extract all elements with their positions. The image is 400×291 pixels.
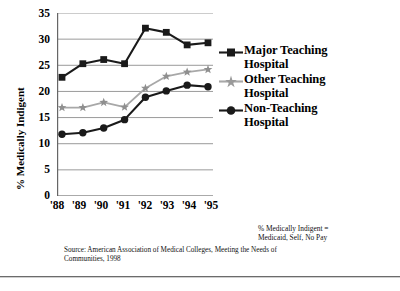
- y-tick-15: 15: [20, 112, 50, 124]
- legend-label-line2: Hospital: [244, 86, 288, 100]
- y-tick-25: 25: [20, 60, 50, 72]
- x-tick-95: '95: [198, 200, 224, 212]
- definition-note-line2: Medicaid, Self, No Pay: [258, 233, 328, 242]
- legend-item-non-teaching[interactable]: Non-Teaching Hospital: [218, 102, 396, 129]
- y-tick-20: 20: [20, 86, 50, 98]
- horizontal-divider-shadow: [0, 277, 400, 278]
- caption-sliver: [10, 283, 390, 291]
- legend-label-major-teaching: Major Teaching Hospital: [244, 44, 327, 71]
- source-note-line1: Source: American Association of Medical …: [64, 246, 294, 255]
- legend-marker-star-icon: [218, 74, 244, 89]
- chart-legend: Major Teaching Hospital Other Teaching H…: [218, 44, 396, 131]
- legend-label-line1: Other Teaching: [244, 72, 325, 86]
- legend-label-non-teaching: Non-Teaching Hospital: [244, 102, 317, 129]
- legend-label-line1: Major Teaching: [244, 43, 327, 57]
- legend-marker-circle-icon: [218, 103, 244, 118]
- legend-label-line2: Hospital: [244, 115, 288, 129]
- chart-canvas: [57, 13, 213, 196]
- y-axis-title: % Medically Indigent: [14, 190, 15, 191]
- y-tick-30: 30: [20, 34, 50, 46]
- y-tick-35: 35: [20, 8, 50, 20]
- source-note-line2: Communities, 1998: [64, 255, 294, 264]
- chart-figure: % Medically Indigent 35 30 25 20 15 10 5…: [0, 0, 400, 291]
- legend-label-line2: Hospital: [244, 57, 288, 71]
- y-tick-5: 5: [20, 164, 50, 176]
- plot-area: [57, 13, 213, 196]
- definition-note-line1: % Medically Indigent =: [258, 224, 328, 233]
- legend-label-other-teaching: Other Teaching Hospital: [244, 73, 325, 100]
- source-note: Source: American Association of Medical …: [64, 246, 294, 265]
- y-tick-10: 10: [20, 138, 50, 150]
- legend-label-line1: Non-Teaching: [244, 101, 317, 115]
- legend-marker-square-icon: [218, 45, 244, 60]
- y-axis-tick-labels: 35 30 25 20 15 10 5 0: [18, 13, 50, 196]
- x-axis-tick-labels: '88 '89 '90 '91 '92 '93 '94 '95: [57, 200, 213, 216]
- legend-item-major-teaching[interactable]: Major Teaching Hospital: [218, 44, 396, 71]
- legend-item-other-teaching[interactable]: Other Teaching Hospital: [218, 73, 396, 100]
- definition-note: % Medically Indigent = Medicaid, Self, N…: [258, 224, 328, 242]
